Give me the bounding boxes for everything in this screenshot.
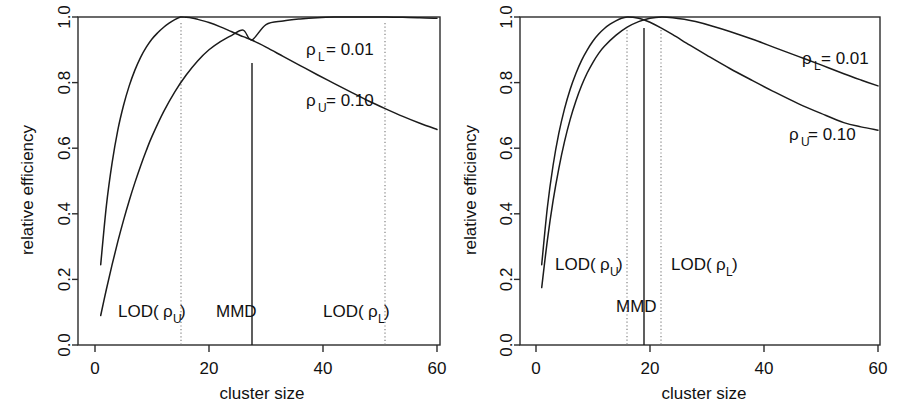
lod-rho: ρ — [716, 255, 726, 274]
y-tick-label: 0.4 — [55, 202, 74, 226]
rho-symbol: ρ — [306, 91, 316, 110]
lod-close: ) — [384, 302, 390, 321]
y-axis-ticks-right — [514, 17, 520, 345]
x-tick-label: 0 — [531, 359, 540, 378]
y-tick-label: 0.6 — [497, 136, 516, 160]
y-axis-ticks-left — [72, 17, 78, 345]
annotation-lod-rho-u-left: LOD( ρ U ) — [118, 302, 186, 326]
y-axis-title-left: relative efficiency — [18, 124, 37, 255]
y-axis-labels-left: 0.0 0.2 0.4 0.6 0.8 1.0 — [55, 5, 74, 357]
y-tick-label: 1.0 — [55, 5, 74, 29]
rho-symbol: ρ — [306, 40, 316, 59]
y-tick-label: 0.2 — [497, 268, 516, 292]
y-axis-labels-right: 0.0 0.2 0.4 0.6 0.8 1.0 — [497, 5, 516, 357]
x-tick-label: 20 — [200, 359, 219, 378]
lod-rho: ρ — [600, 255, 610, 274]
y-axis-title-right: relative efficiency — [461, 124, 480, 255]
y-tick-label: 0.2 — [55, 268, 74, 292]
figure-root: 0.0 0.2 0.4 0.6 0.8 1.0 relative efficie… — [0, 0, 919, 416]
rho-symbol: ρ — [789, 125, 799, 144]
plot-frame-left — [78, 17, 440, 345]
lod-open: LOD( — [323, 302, 364, 321]
rho-value: = 0.10 — [808, 125, 856, 144]
x-axis-labels-right: 0 20 40 60 — [531, 359, 887, 378]
lod-rho: ρ — [368, 302, 378, 321]
curve-rho-l-left — [101, 17, 437, 316]
annotation-rho-u-left: ρ U = 0.10 — [306, 91, 374, 115]
y-tick-label: 0.4 — [497, 202, 516, 226]
annotation-mmd-right: MMD — [616, 297, 657, 316]
x-tick-label: 40 — [755, 359, 774, 378]
lod-open: LOD( — [118, 302, 159, 321]
curve-rho-u-left — [101, 17, 437, 265]
x-tick-label: 40 — [314, 359, 333, 378]
x-axis-title-left: cluster size — [219, 384, 304, 403]
rho-value: = 0.10 — [326, 91, 374, 110]
lod-open: LOD( — [671, 255, 712, 274]
annotation-lod-rho-l-right: LOD( ρ L ) — [671, 255, 738, 279]
x-axis-ticks-right — [536, 345, 878, 352]
y-tick-label: 0.6 — [55, 136, 74, 160]
y-tick-label: 0.8 — [497, 71, 516, 95]
x-tick-label: 0 — [90, 359, 99, 378]
annotation-mmd-left: MMD — [216, 302, 257, 321]
rho-value: = 0.01 — [326, 40, 374, 59]
lod-close: ) — [732, 255, 738, 274]
y-tick-label: 1.0 — [497, 5, 516, 29]
y-tick-label: 0.0 — [497, 333, 516, 357]
x-axis-labels-left: 0 20 40 60 — [90, 359, 446, 378]
annotation-rho-l-left: ρ L = 0.01 — [306, 40, 374, 64]
y-tick-label: 0.8 — [55, 71, 74, 95]
rho-symbol: ρ — [802, 49, 812, 68]
rho-subscript: L — [318, 50, 325, 64]
annotation-lod-rho-l-left: LOD( ρ L ) — [323, 302, 390, 326]
x-axis-ticks-left — [95, 345, 437, 352]
lod-rho: ρ — [163, 302, 173, 321]
x-tick-label: 60 — [428, 359, 447, 378]
x-tick-label: 20 — [641, 359, 660, 378]
lod-close: ) — [617, 255, 623, 274]
panel-right: 0.0 0.2 0.4 0.6 0.8 1.0 relative efficie… — [459, 0, 918, 416]
panel-left: 0.0 0.2 0.4 0.6 0.8 1.0 relative efficie… — [0, 0, 459, 416]
rho-subscript: L — [814, 59, 821, 73]
x-tick-label: 60 — [869, 359, 888, 378]
annotation-rho-u-right: ρ U = 0.10 — [789, 125, 856, 149]
x-axis-title-right: cluster size — [661, 384, 746, 403]
lod-open: LOD( — [555, 255, 596, 274]
right-plot-svg: 0.0 0.2 0.4 0.6 0.8 1.0 relative efficie… — [459, 0, 919, 416]
lod-close: ) — [180, 302, 186, 321]
left-plot-svg: 0.0 0.2 0.4 0.6 0.8 1.0 relative efficie… — [0, 0, 459, 416]
annotation-lod-rho-u-right: LOD( ρ U ) — [555, 255, 623, 279]
y-tick-label: 0.0 — [55, 333, 74, 357]
rho-value: = 0.01 — [821, 49, 869, 68]
